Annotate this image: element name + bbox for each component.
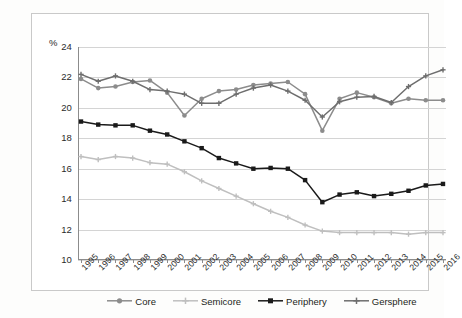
series-plot — [78, 47, 446, 260]
y-tick-label: 22 — [46, 72, 72, 82]
y-tick-label: 20 — [46, 103, 72, 113]
legend-item-core[interactable]: Core — [107, 293, 156, 311]
y-tick-label: 14 — [46, 194, 72, 204]
chart-legend: CoreSemicorePeripheryGersphere — [78, 295, 446, 309]
plot-inner — [78, 47, 446, 260]
legend-label: Periphery — [286, 297, 327, 307]
legend-item-gersphere[interactable]: Gersphere — [344, 293, 417, 311]
legend-item-semicore[interactable]: Semicore — [173, 293, 241, 311]
legend-label: Core — [135, 297, 156, 307]
legend-marker-square-icon — [258, 293, 283, 311]
y-tick-label: 24 — [46, 42, 72, 52]
legend-marker-plus-icon — [173, 293, 198, 311]
y-tick-label: 10 — [46, 255, 72, 265]
y-tick-label: 18 — [46, 133, 72, 143]
y-tick-label: 12 — [46, 225, 72, 235]
legend-label: Gersphere — [372, 297, 417, 307]
y-tick-label: 16 — [46, 164, 72, 174]
legend-marker-plus-icon — [344, 293, 369, 311]
series-periphery — [79, 119, 445, 204]
legend-marker-circle-icon — [107, 293, 132, 311]
series-gersphere — [78, 67, 445, 119]
legend-item-periphery[interactable]: Periphery — [258, 293, 327, 311]
plot-area: 2422201816141210 19951996199719981999200… — [78, 47, 446, 260]
legend-label: Semicore — [201, 297, 241, 307]
chart-frame: % 2422201816141210 199519961997199819992… — [31, 13, 429, 291]
